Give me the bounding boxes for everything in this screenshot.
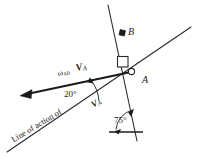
pin-joint-icon [128,68,134,74]
line-of-action-line [7,27,191,152]
diagram-canvas [0,0,201,164]
omega-ab-subscript: AB [63,70,71,76]
label-point-a: A [142,75,148,85]
label-point-b: B [128,27,134,37]
slider-block-icon [119,29,126,36]
label-angle-75: 75° [114,116,127,125]
label-velocity-a: VA [75,61,88,74]
label-angle-20: 20° [64,90,77,99]
kinematics-diagram: B A ωAB VA 20° 75° Line of action of VA [0,0,201,164]
right-angle-marker-icon [118,57,129,68]
